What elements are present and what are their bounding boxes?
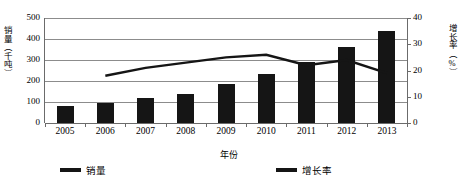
y-right-tickmark-20 <box>407 71 411 72</box>
x-label-2006: 2006 <box>96 126 115 136</box>
y-right-tick-0: 0 <box>413 118 418 127</box>
x-tickmark-1 <box>85 123 86 127</box>
y-axis-left-title: 销量（千吨） <box>2 26 11 122</box>
y-left-tick-300: 300 <box>27 55 41 64</box>
x-tickmark-9 <box>407 123 408 127</box>
x-label-2008: 2008 <box>176 126 195 136</box>
x-tickmark-6 <box>286 123 287 127</box>
plot-area: 0100200300400500 010203040 2005200620072… <box>45 18 407 123</box>
y-left-tick-0: 0 <box>36 118 41 127</box>
legend-item-sales: 销量 <box>60 163 106 177</box>
x-tickmark-3 <box>166 123 167 127</box>
legend-label-growth: 增长率 <box>302 163 332 177</box>
x-tickmark-8 <box>367 123 368 127</box>
y-right-tick-30: 30 <box>413 39 422 48</box>
y-axis-right-title: 增长率（%） <box>448 24 457 124</box>
gridline-0 <box>45 123 407 124</box>
y-right-tickmark-40 <box>407 18 411 19</box>
x-label-2010: 2010 <box>257 126 276 136</box>
x-label-2012: 2012 <box>337 126 356 136</box>
x-tickmark-7 <box>327 123 328 127</box>
legend: 销量 增长率 <box>45 163 407 181</box>
y-right-tick-40: 40 <box>413 13 422 22</box>
y-left-tick-400: 400 <box>27 34 41 43</box>
x-tickmark-4 <box>206 123 207 127</box>
sales-growth-chart: 销量（千吨） 增长率（%） 0100200300400500 010203040… <box>0 0 458 184</box>
x-axis-title: 年份 <box>0 148 458 161</box>
y-right-tickmark-30 <box>407 44 411 45</box>
y-left-tick-500: 500 <box>27 13 41 22</box>
x-label-2007: 2007 <box>136 126 155 136</box>
x-tickmark-5 <box>246 123 247 127</box>
y-right-tick-20: 20 <box>413 66 422 75</box>
x-label-2009: 2009 <box>217 126 236 136</box>
y-left-tick-200: 200 <box>27 76 41 85</box>
x-label-2011: 2011 <box>297 126 316 136</box>
y-left-tick-100: 100 <box>27 97 41 106</box>
legend-label-sales: 销量 <box>86 163 106 177</box>
y-right-tick-10: 10 <box>413 92 422 101</box>
legend-item-growth: 增长率 <box>276 163 332 177</box>
growth-rate-line <box>45 18 407 123</box>
y-right-tickmark-10 <box>407 97 411 98</box>
x-tickmark-2 <box>125 123 126 127</box>
legend-swatch-sales <box>60 168 81 172</box>
x-tickmark-0 <box>45 123 46 127</box>
x-label-2013: 2013 <box>377 126 396 136</box>
x-label-2005: 2005 <box>56 126 75 136</box>
legend-swatch-growth <box>276 168 297 172</box>
